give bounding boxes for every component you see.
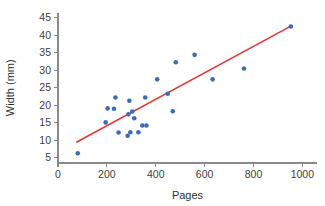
scatter-plot-figure: 5101520253035404502004006008001000PagesW… <box>0 0 325 206</box>
data-point-9 <box>128 130 133 135</box>
y-tick-label-20: 20 <box>39 99 51 111</box>
data-point-10 <box>130 109 135 114</box>
plot-canvas: 5101520253035404502004006008001000PagesW… <box>0 0 325 206</box>
data-point-2 <box>105 106 110 111</box>
data-point-19 <box>173 60 178 65</box>
x-tick-label-200: 200 <box>98 168 116 180</box>
y-tick-label-25: 25 <box>39 81 51 93</box>
data-point-13 <box>140 123 145 128</box>
regression-line <box>77 26 291 142</box>
x-tick-label-0: 0 <box>55 168 61 180</box>
y-tick-label-40: 40 <box>39 29 51 41</box>
data-point-22 <box>242 66 247 71</box>
y-tick-label-5: 5 <box>45 151 51 163</box>
data-point-7 <box>126 112 131 117</box>
data-point-20 <box>192 53 197 58</box>
data-point-16 <box>155 77 160 82</box>
y-tick-label-45: 45 <box>39 11 51 23</box>
x-tick-label-600: 600 <box>196 168 214 180</box>
data-point-1 <box>103 120 108 125</box>
data-point-4 <box>113 95 118 100</box>
data-point-5 <box>116 130 121 135</box>
y-tick-label-35: 35 <box>39 46 51 58</box>
y-tick-label-15: 15 <box>39 116 51 128</box>
x-tick-label-400: 400 <box>147 168 165 180</box>
y-tick-label-30: 30 <box>39 64 51 76</box>
data-point-18 <box>171 109 176 114</box>
data-point-15 <box>144 123 149 128</box>
data-point-21 <box>210 77 215 82</box>
x-tick-label-1000: 1000 <box>291 168 315 180</box>
data-point-3 <box>112 106 117 111</box>
data-point-11 <box>132 116 137 121</box>
data-point-12 <box>136 130 141 135</box>
y-axis-title: Width (mm) <box>4 59 16 116</box>
data-point-17 <box>165 91 170 96</box>
data-point-14 <box>143 95 148 100</box>
data-point-8 <box>127 98 132 103</box>
x-axis-title: Pages <box>172 189 204 201</box>
x-tick-label-800: 800 <box>245 168 263 180</box>
data-point-0 <box>75 151 80 156</box>
y-tick-label-10: 10 <box>39 134 51 146</box>
data-point-23 <box>289 24 294 29</box>
